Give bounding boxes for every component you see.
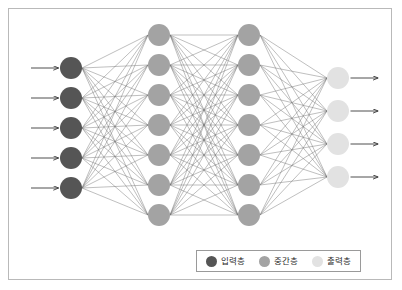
neural-network-diagram (0, 0, 402, 290)
connection-line (260, 177, 327, 185)
connection-line (260, 65, 327, 111)
node-input-5 (60, 177, 82, 199)
legend-label-hidden: 중간층 (274, 257, 298, 266)
node-hidden2-7 (238, 204, 260, 226)
legend-item-output: 출력층 (312, 256, 351, 267)
connection-line (260, 78, 327, 95)
node-hidden2-5 (238, 144, 260, 166)
node-hidden1-7 (148, 204, 170, 226)
connection-line (260, 144, 327, 215)
legend-label-output: 출력층 (327, 257, 351, 266)
connection-line (82, 35, 148, 68)
node-hidden1-3 (148, 84, 170, 106)
node-input-4 (60, 147, 82, 169)
connection-line (82, 95, 148, 188)
connection-edges (82, 35, 327, 215)
connection-line (82, 35, 148, 128)
node-input-3 (60, 117, 82, 139)
connection-line (82, 35, 148, 158)
node-hidden2-3 (238, 84, 260, 106)
node-output-4 (327, 166, 349, 188)
legend-swatch-input-icon (206, 256, 217, 267)
diagram-page: 입력층 중간층 출력층 (0, 0, 402, 290)
node-hidden1-5 (148, 144, 170, 166)
connection-line (260, 78, 327, 215)
connection-line (82, 35, 148, 98)
node-output-3 (327, 133, 349, 155)
legend-swatch-hidden-icon (259, 256, 270, 267)
node-output-2 (327, 100, 349, 122)
connection-line (260, 177, 327, 215)
node-hidden2-4 (238, 114, 260, 136)
legend-item-input: 입력층 (206, 256, 245, 267)
node-input-2 (60, 87, 82, 109)
node-hidden2-1 (238, 24, 260, 46)
node-hidden2-6 (238, 174, 260, 196)
node-hidden1-6 (148, 174, 170, 196)
legend-swatch-output-icon (312, 256, 323, 267)
node-output-1 (327, 67, 349, 89)
connection-line (82, 65, 148, 188)
connection-line (260, 95, 327, 144)
connection-line (260, 95, 327, 111)
legend-label-input: 입력층 (221, 257, 245, 266)
node-hidden1-1 (148, 24, 170, 46)
node-input-1 (60, 57, 82, 79)
connection-line (260, 65, 327, 144)
node-hidden2-2 (238, 54, 260, 76)
connection-line (82, 35, 148, 188)
node-hidden1-4 (148, 114, 170, 136)
connection-line (82, 125, 148, 188)
connection-line (260, 35, 327, 111)
connection-line (82, 188, 148, 215)
connection-line (82, 185, 148, 188)
connection-line (82, 155, 148, 188)
node-hidden1-2 (148, 54, 170, 76)
connection-line (260, 65, 327, 177)
legend-item-hidden: 중간층 (259, 256, 298, 267)
connection-line (260, 144, 327, 155)
connection-line (260, 111, 327, 215)
legend: 입력층 중간층 출력층 (196, 250, 361, 272)
